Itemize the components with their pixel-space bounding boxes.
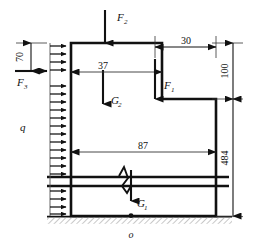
dim-30-value: 30 bbox=[181, 35, 191, 46]
dim-484-value: 484 bbox=[219, 151, 230, 166]
distributed-load-q-label: q bbox=[20, 121, 26, 133]
dim-100-value: 100 bbox=[219, 64, 230, 79]
dim-87-value: 87 bbox=[138, 140, 148, 151]
ground-hatch bbox=[47, 217, 232, 224]
origin-point bbox=[129, 213, 134, 218]
force-F2-label: F bbox=[116, 11, 124, 23]
weight-G1-subscript: 1 bbox=[144, 204, 148, 212]
force-F2-subscript: 2 bbox=[124, 18, 128, 26]
force-F1-subscript: 1 bbox=[171, 86, 175, 94]
weight-G2-subscript: 2 bbox=[118, 101, 122, 109]
origin-label: o bbox=[129, 229, 134, 240]
dim-70-value: 70 bbox=[14, 52, 25, 62]
force-F1-label: F bbox=[163, 79, 171, 91]
engineering-diagram: F 2 F 1 F 3 G 2 G 1 q 70 37 30 bbox=[0, 0, 255, 250]
dim-37-value: 37 bbox=[98, 60, 108, 71]
force-F3-label: F bbox=[16, 76, 24, 88]
force-F3-subscript: 3 bbox=[23, 83, 28, 91]
